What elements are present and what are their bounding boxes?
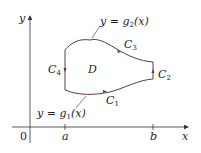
diagram-canvas: y x 0 a b D C1 C2 C3 C4 y = g2(x) y = g1… [0,0,201,153]
region-label: D [87,63,97,76]
label-c2: C2 [158,68,171,82]
region-boundary [65,39,153,94]
label-c1: C1 [106,94,119,108]
arrow-c4 [64,68,67,72]
tick-label-a: a [62,130,69,143]
annotation-upper: y = g2(x) [99,15,149,29]
label-c4: C4 [48,63,61,77]
y-axis-label: y [18,12,26,25]
annotation-lower: y = g1(x) [36,107,86,121]
arrow-c2 [152,69,155,73]
origin-label: 0 [20,130,27,143]
x-axis-label: x [182,130,189,143]
label-c3: C3 [124,38,137,52]
tick-label-b: b [150,130,157,143]
pointer-upper [92,26,100,38]
